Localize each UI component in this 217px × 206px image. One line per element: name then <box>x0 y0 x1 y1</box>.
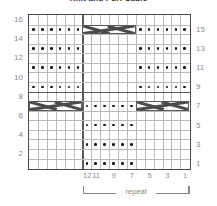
grid-hline <box>29 82 190 83</box>
grid-hline <box>29 44 190 45</box>
purl-stitch-dot <box>175 47 178 50</box>
purl-stitch-dot <box>86 105 89 108</box>
purl-stitch-dot <box>166 47 169 50</box>
purl-stitch-dot <box>166 86 169 89</box>
column-label-1: 1 <box>178 171 192 181</box>
purl-stitch-dot <box>68 28 71 31</box>
purl-stitch-dot <box>68 86 71 89</box>
chart-grid-cells <box>29 15 190 169</box>
chart-grid <box>28 14 191 170</box>
grid-hline <box>29 130 190 131</box>
purl-stitch-dot <box>32 28 35 31</box>
purl-stitch-dot <box>41 28 44 31</box>
purl-stitch-dot <box>148 66 151 69</box>
purl-stitch-dot <box>157 28 160 31</box>
grid-hline <box>29 72 190 73</box>
purl-stitch-dot <box>183 28 186 31</box>
purl-stitch-dot <box>130 143 133 146</box>
purl-stitch-dot <box>77 86 80 89</box>
purl-stitch-dot <box>148 28 151 31</box>
purl-stitch-dot <box>183 86 186 89</box>
purl-stitch-dot <box>50 86 53 89</box>
grid-hline <box>29 120 190 121</box>
purl-stitch-dot <box>121 162 124 165</box>
chart-title: Knit and Purl Cable <box>0 0 217 2</box>
purl-stitch-dot <box>103 124 106 127</box>
grid-hline <box>29 53 190 54</box>
grid-hline <box>29 63 190 64</box>
purl-stitch-dot <box>41 86 44 89</box>
row-label-6: 6 <box>1 111 23 121</box>
purl-stitch-dot <box>103 143 106 146</box>
purl-stitch-dot <box>175 86 178 89</box>
purl-stitch-dot <box>94 124 97 127</box>
purl-stitch-dot <box>148 47 151 50</box>
purl-stitch-dot <box>94 105 97 108</box>
row-label-8: 8 <box>1 92 23 102</box>
column-label-9: 9 <box>107 171 121 181</box>
purl-stitch-dot <box>32 47 35 50</box>
purl-stitch-dot <box>183 66 186 69</box>
purl-stitch-dot <box>77 47 80 50</box>
grid-hline <box>29 139 190 140</box>
purl-stitch-dot <box>59 86 62 89</box>
purl-stitch-dot <box>86 143 89 146</box>
purl-stitch-dot <box>41 66 44 69</box>
row-label-3: 3 <box>196 140 216 150</box>
purl-stitch-dot <box>50 47 53 50</box>
cable-cross-symbol <box>136 101 189 111</box>
cable-cross-symbol <box>82 25 135 35</box>
purl-stitch-dot <box>139 86 142 89</box>
purl-stitch-dot <box>103 162 106 165</box>
purl-stitch-dot <box>148 86 151 89</box>
repeat-bracket-tick-right <box>188 186 189 194</box>
purl-stitch-dot <box>68 66 71 69</box>
purl-stitch-dot <box>86 162 89 165</box>
grid-hline <box>29 149 190 150</box>
purl-stitch-dot <box>94 143 97 146</box>
purl-stitch-dot <box>59 47 62 50</box>
grid-hline <box>29 159 190 160</box>
repeat-bracket: repeat <box>83 185 190 197</box>
grid-hline <box>29 92 190 93</box>
purl-stitch-dot <box>139 47 142 50</box>
row-label-10: 10 <box>1 73 23 83</box>
purl-stitch-dot <box>77 66 80 69</box>
purl-stitch-dot <box>103 105 106 108</box>
purl-stitch-dot <box>130 162 133 165</box>
purl-stitch-dot <box>112 105 115 108</box>
purl-stitch-dot <box>59 28 62 31</box>
cable-cross-symbol <box>29 101 82 111</box>
grid-hline <box>29 34 190 35</box>
column-label-11: 11 <box>89 171 103 181</box>
purl-stitch-dot <box>183 47 186 50</box>
purl-stitch-dot <box>59 66 62 69</box>
grid-hline <box>29 111 190 112</box>
row-label-12: 12 <box>1 53 23 63</box>
purl-stitch-dot <box>77 28 80 31</box>
column-label-7: 7 <box>125 171 139 181</box>
purl-stitch-dot <box>166 28 169 31</box>
row-label-13: 13 <box>196 44 216 54</box>
column-label-5: 5 <box>143 171 157 181</box>
row-label-2: 2 <box>1 149 23 159</box>
purl-stitch-dot <box>157 86 160 89</box>
purl-stitch-dot <box>121 143 124 146</box>
purl-stitch-dot <box>32 86 35 89</box>
repeat-bracket-tick-left <box>83 186 84 194</box>
purl-stitch-dot <box>139 28 142 31</box>
column-label-3: 3 <box>160 171 174 181</box>
purl-stitch-dot <box>121 105 124 108</box>
row-label-1: 1 <box>196 159 216 169</box>
row-label-7: 7 <box>196 101 216 111</box>
purl-stitch-dot <box>166 66 169 69</box>
purl-stitch-dot <box>41 47 44 50</box>
purl-stitch-dot <box>68 47 71 50</box>
purl-stitch-dot <box>112 143 115 146</box>
row-label-16: 16 <box>1 15 23 25</box>
purl-stitch-dot <box>86 124 89 127</box>
purl-stitch-dot <box>121 124 124 127</box>
row-label-15: 15 <box>196 25 216 35</box>
purl-stitch-dot <box>130 105 133 108</box>
row-label-5: 5 <box>196 121 216 131</box>
